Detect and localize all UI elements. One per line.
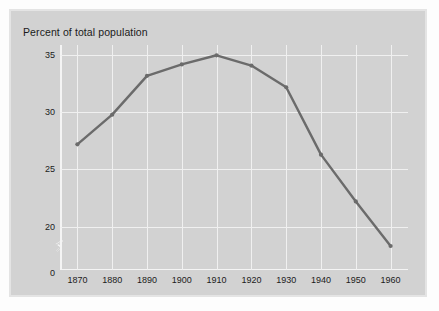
figure: Percent of total population 202530350 18… [0,0,439,311]
plot-area [60,45,408,270]
x-tick-label-1920: 1920 [241,275,261,285]
x-tick-label-1930: 1930 [276,275,296,285]
x-tick-label-1960: 1960 [381,275,401,285]
data-point-1950 [354,199,358,203]
data-point-1900 [180,62,184,66]
x-tick-label-1910: 1910 [207,275,227,285]
y-axis-tick-labels: 202530350 [29,45,55,270]
data-point-1880 [110,113,114,117]
x-tick-label-1870: 1870 [67,275,87,285]
x-tick-label-1950: 1950 [346,275,366,285]
x-tick-label-1890: 1890 [137,275,157,285]
x-tick-label-1880: 1880 [102,275,122,285]
y-tick-label-30: 30 [45,107,55,117]
data-point-1930 [284,85,288,89]
data-point-1920 [249,63,253,67]
x-tick-label-1940: 1940 [311,275,331,285]
x-tick-label-1900: 1900 [172,275,192,285]
data-series-line [60,45,408,270]
data-point-1890 [145,74,149,78]
data-point-1940 [319,153,323,157]
data-point-1960 [389,244,393,248]
chart-frame: Percent of total population 202530350 18… [9,9,427,297]
y-tick-label-0: 0 [50,268,55,278]
data-point-1870 [75,142,79,146]
x-axis-tick-labels: 1870188018901900191019201930194019501960 [60,275,408,289]
y-tick-label-35: 35 [45,50,55,60]
plot-title: Percent of total population [23,26,148,38]
data-point-1910 [215,53,219,57]
y-tick-label-25: 25 [45,164,55,174]
chart-panel: Percent of total population 202530350 18… [11,11,425,295]
y-tick-label-20: 20 [45,222,55,232]
series-line-0 [77,55,390,246]
